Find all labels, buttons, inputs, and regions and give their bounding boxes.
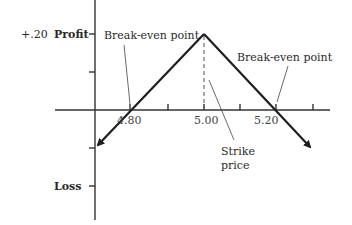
payoff-line-left (98, 34, 204, 145)
x-tick-label-480: 4.80 (117, 114, 142, 127)
payoff-diagram: +.20 Profit Loss Break-even point Break-… (0, 0, 352, 225)
x-tick-label-500: 5.00 (194, 114, 219, 127)
x-tick-label-520: 5.20 (254, 114, 279, 127)
break-even-left-leader (124, 45, 130, 104)
loss-label: Loss (54, 180, 81, 193)
break-even-left-label: Break-even point (104, 29, 200, 42)
strike-label-line1: Strike (221, 145, 255, 158)
y-top-value-label: +.20 (21, 28, 48, 41)
break-even-right-leader (277, 66, 288, 102)
strike-label-line2: price (221, 159, 250, 172)
profit-label: Profit (54, 28, 89, 41)
break-even-right-label: Break-even point (237, 51, 333, 64)
